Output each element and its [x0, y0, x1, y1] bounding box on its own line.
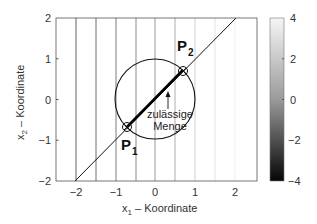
annotation-line2: Menge [153, 120, 187, 132]
chart: P 1 P 2 zulässige Menge 2 1 0 −1 −2 −2 −… [0, 0, 317, 224]
colorbar-tick-label: −2 [288, 134, 301, 146]
plot-area [56, 18, 257, 181]
x-tick-label: 0 [152, 186, 158, 198]
p1-label: P [121, 136, 131, 153]
y-tick-label: −1 [38, 134, 51, 146]
colorbar: 4 2 0 −2 −4 [270, 12, 301, 187]
colorbar-tick-label: 2 [290, 53, 296, 65]
x-axis-label: x1 – Koordinate [122, 202, 197, 217]
x-tick-label: −1 [110, 186, 123, 198]
annotation-line1: zulässige [147, 108, 193, 120]
y-axis: 2 1 0 −1 −2 [38, 12, 58, 187]
x-tick-label: 2 [232, 186, 238, 198]
p2-label: P [177, 37, 187, 54]
y-tick-label: 1 [45, 53, 51, 65]
colorbar-tick-label: 0 [290, 94, 296, 106]
colorbar-tick-label: 4 [290, 12, 296, 24]
x-tick-label: −2 [70, 186, 83, 198]
x-axis: −2 −1 0 1 2 [70, 186, 238, 198]
y-tick-label: −2 [38, 175, 51, 187]
p1-label-sub: 1 [132, 146, 138, 157]
y-axis-label: x2 – Koordinate [14, 65, 29, 140]
x-tick-label: 1 [192, 186, 198, 198]
y-tick-label: 0 [45, 94, 51, 106]
colorbar-tick-label: −4 [288, 175, 301, 187]
y-tick-label: 2 [45, 12, 51, 24]
p2-label-sub: 2 [188, 47, 194, 58]
